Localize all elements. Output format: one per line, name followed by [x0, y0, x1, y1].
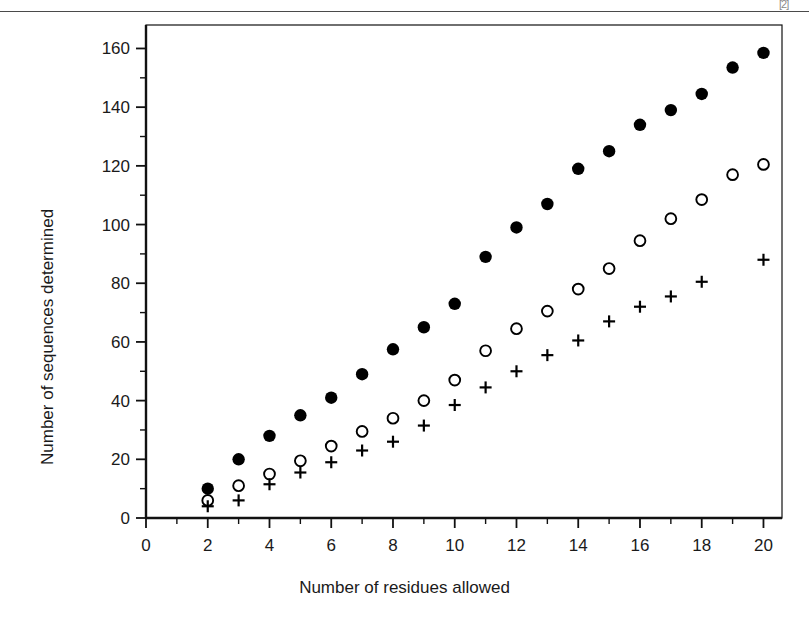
svg-text:120: 120 — [102, 157, 130, 176]
svg-text:20: 20 — [111, 450, 130, 469]
axis-ticks — [136, 48, 763, 528]
svg-text:140: 140 — [102, 98, 130, 117]
svg-text:8: 8 — [388, 536, 397, 555]
svg-text:16: 16 — [631, 536, 650, 555]
svg-text:14: 14 — [569, 536, 588, 555]
svg-text:40: 40 — [111, 392, 130, 411]
svg-text:80: 80 — [111, 274, 130, 293]
plot-axes — [146, 25, 782, 518]
svg-text:12: 12 — [507, 536, 526, 555]
svg-text:60: 60 — [111, 333, 130, 352]
x-axis-title: Number of residues allowed — [0, 578, 809, 598]
svg-text:160: 160 — [102, 39, 130, 58]
svg-text:20: 20 — [754, 536, 773, 555]
scanned-page: [2] 020406080100120140160024681012141618… — [0, 0, 809, 623]
svg-text:0: 0 — [121, 509, 130, 528]
plot-canvas: 02040608010012014016002468101214161820 — [0, 0, 809, 623]
data-points — [202, 47, 770, 513]
svg-text:2: 2 — [203, 536, 212, 555]
svg-text:4: 4 — [265, 536, 274, 555]
svg-text:10: 10 — [445, 536, 464, 555]
svg-text:100: 100 — [102, 216, 130, 235]
y-axis-title: Number of sequences determined — [38, 209, 58, 465]
svg-text:6: 6 — [327, 536, 336, 555]
scatter-plot-figure: 02040608010012014016002468101214161820 N… — [0, 0, 809, 623]
svg-text:18: 18 — [692, 536, 711, 555]
svg-text:0: 0 — [141, 536, 150, 555]
